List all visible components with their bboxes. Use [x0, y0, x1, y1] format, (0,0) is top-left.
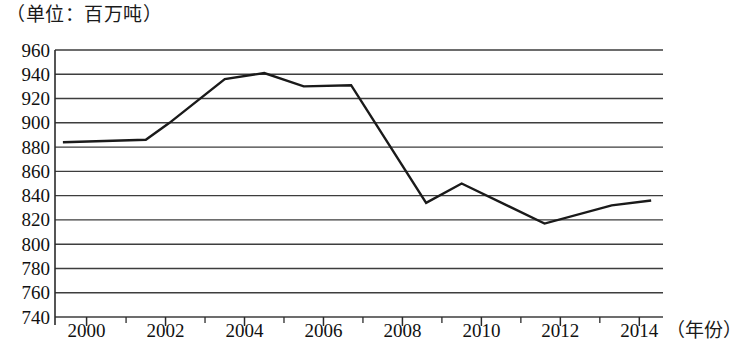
plot-svg: [55, 50, 663, 317]
x-axis-tick-label: 2010: [451, 320, 511, 342]
x-axis-tick-label: 2012: [530, 320, 590, 342]
x-axis-tick-label: 2004: [215, 320, 275, 342]
y-axis-tick-label: 780: [2, 259, 50, 278]
y-axis-tick-label: 800: [2, 235, 50, 254]
gridlines: [55, 50, 663, 317]
y-axis-tick-label: 820: [2, 210, 50, 229]
x-axis-tick-label: 2014: [609, 320, 669, 342]
y-axis-tick-label: 920: [2, 89, 50, 108]
x-axis-tick-label: 2002: [136, 320, 196, 342]
y-axis-tick-label: 740: [2, 308, 50, 327]
x-axis-tick-label: 2006: [293, 320, 353, 342]
plot-area: [55, 50, 663, 317]
y-axis-tick-label: 760: [2, 283, 50, 302]
x-axis-tick-labels: 20002002200420062008201020122014: [55, 318, 663, 344]
line-chart: （单位：百万吨） 9609409209008808608408208007807…: [0, 0, 730, 344]
data-series-line: [63, 73, 651, 223]
x-axis-tick-label: 2008: [372, 320, 432, 342]
x-axis-tick-label: 2000: [57, 320, 117, 342]
y-axis-tick-label: 960: [2, 41, 50, 60]
y-axis-tick-label: 880: [2, 138, 50, 157]
y-axis-tick-label: 900: [2, 113, 50, 132]
x-axis-title: （年份）: [666, 320, 730, 342]
y-axis-tick-labels: 960940920900880860840820800780760740: [0, 50, 50, 317]
y-axis-tick-label: 860: [2, 162, 50, 181]
unit-caption: （单位：百万吨）: [6, 3, 162, 27]
y-axis-tick-label: 940: [2, 65, 50, 84]
y-axis-tick-label: 840: [2, 186, 50, 205]
